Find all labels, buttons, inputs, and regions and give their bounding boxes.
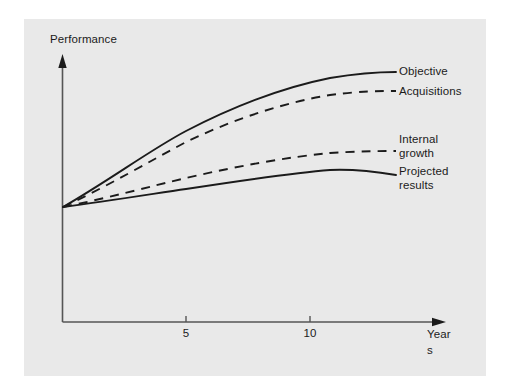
series-label-acquisitions: Acquisitions	[399, 85, 462, 99]
x-axis	[63, 318, 447, 326]
x-axis-ticks	[186, 316, 310, 322]
series-line-internal-growth	[63, 151, 396, 207]
chart-figure: Performance Year s 5 10 Objective Acquis…	[0, 0, 512, 391]
series-label-projected-results: Projected results	[399, 165, 448, 192]
x-tick-label-10: 10	[298, 327, 322, 341]
series-label-internal-growth: Internal growth	[399, 133, 438, 160]
series-label-objective: Objective	[399, 65, 448, 79]
series-line-acquisitions	[63, 91, 396, 207]
x-tick-label-5: 5	[174, 327, 198, 341]
y-axis-title: Performance	[50, 33, 117, 47]
y-axis	[58, 54, 66, 322]
x-axis-title: Year s	[427, 326, 457, 358]
